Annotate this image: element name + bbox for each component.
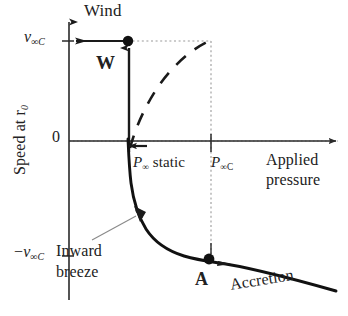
x-tick-label-p-infinity-c: P∞C (211, 155, 233, 172)
x-tick-symbol-p: P (133, 154, 142, 170)
annotation-wind: Wind (84, 2, 122, 20)
x-tick-subscript-infinity-c: ∞C (220, 162, 233, 172)
x-tick-label-p-infinity-static: P∞ static (133, 155, 185, 172)
x-axis-label-line1: Applied (266, 152, 318, 169)
y-axis-label-subscript: 0 (19, 105, 30, 110)
y-axis-label: Speed at r0 (12, 75, 30, 205)
dashed-unstable-branch (130, 41, 209, 148)
y-tick-subscript-neg: ∞C (30, 251, 44, 262)
curve-direction-arrow-knee (134, 206, 146, 222)
x-tick-symbol-p-c: P (211, 154, 220, 170)
x-tick-subscript-infinity: ∞ (142, 162, 149, 172)
y-tick-label-vinfc-positive: v∞C (24, 29, 45, 47)
marker-point-a (204, 254, 215, 265)
leader-line-inward-breeze (92, 216, 136, 240)
annotation-w-branch: W (96, 53, 115, 73)
y-tick-subscript: ∞C (31, 36, 45, 47)
y-tick-label-zero: 0 (52, 129, 60, 146)
x-axis-label-line2: pressure (266, 172, 320, 189)
minus-sign: − (14, 243, 23, 260)
marker-point-w (123, 36, 133, 46)
annotation-inward-line1: Inward (56, 243, 102, 260)
y-axis-label-text: Speed at r (11, 110, 28, 175)
annotation-inward-line2: breeze (56, 264, 98, 281)
y-tick-label-vinfc-negative: −v∞C (14, 244, 44, 262)
x-tick-suffix-static: static (149, 154, 185, 170)
annotation-a-point: A (195, 270, 208, 289)
